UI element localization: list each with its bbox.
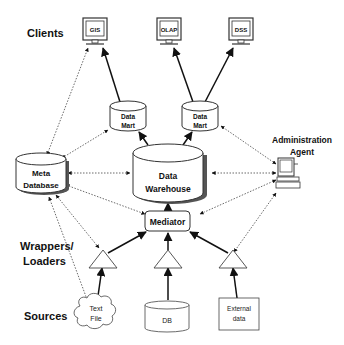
- edge-warehouse-mart2: [183, 132, 192, 145]
- source-external-line1: External: [227, 305, 251, 312]
- row-label-loaders: Loaders: [23, 255, 66, 267]
- triangle-icon: [154, 250, 182, 268]
- edge-admin-mart2: [221, 126, 276, 164]
- client-gis-label: GIS: [90, 27, 100, 33]
- data-warehouse-line1: Data: [159, 171, 178, 181]
- triangle-icon: [89, 250, 117, 268]
- edge-admin-mediator: [200, 180, 276, 214]
- edge-metadb-gis: [47, 48, 88, 155]
- data-mart-2: Data Mart: [182, 101, 218, 131]
- wrapper-1: [89, 250, 117, 268]
- row-label-wrappers: Wrappers/: [20, 240, 74, 252]
- wrapper-2: [154, 250, 182, 268]
- architecture-diagram: Clients Wrappers/ Loaders Sources GIS OL…: [0, 0, 344, 345]
- client-dss-label: DSS: [235, 27, 247, 33]
- source-text-file-line1: Text: [90, 305, 103, 312]
- edge-external-wrapper3: [233, 268, 237, 298]
- edge-metadb-mart1: [62, 130, 108, 158]
- admin-computer-icon: [276, 158, 300, 188]
- client-olap-label: OLAP: [161, 27, 178, 33]
- row-label-clients: Clients: [27, 27, 64, 39]
- client-dss: DSS: [229, 18, 253, 44]
- data-mart-1-line2: Mart: [121, 122, 136, 129]
- source-db-label: DB: [162, 317, 172, 324]
- source-text-file-line2: File: [90, 315, 101, 322]
- meta-database: Meta Database: [16, 153, 69, 195]
- meta-database-line2: Database: [23, 181, 59, 190]
- meta-database-line1: Meta: [32, 169, 51, 178]
- data-warehouse-line2: Warehouse: [145, 184, 191, 194]
- data-mart-2-line2: Mart: [193, 122, 208, 129]
- data-mart-1-line1: Data: [121, 113, 135, 120]
- data-mart-2-line1: Data: [193, 113, 207, 120]
- data-mart-1: Data Mart: [110, 101, 146, 131]
- source-external-line2: data: [233, 315, 246, 322]
- admin-agent-line1: Administration: [272, 135, 332, 145]
- edge-mart2-dss: [205, 48, 233, 102]
- client-gis: GIS: [83, 18, 107, 44]
- wrapper-3: [219, 250, 247, 268]
- edge-mart1-gis: [103, 48, 120, 102]
- admin-agent-line2: Agent: [290, 147, 314, 157]
- row-label-sources: Sources: [24, 310, 67, 322]
- triangle-icon: [219, 250, 247, 268]
- mediator-label: Mediator: [150, 217, 186, 227]
- source-db: DB: [145, 301, 189, 332]
- edge-wrapper3-mediator: [190, 232, 228, 253]
- edge-warehouse-mart1: [139, 132, 148, 145]
- source-text-file: Text File: [74, 293, 116, 328]
- mediator: Mediator: [145, 211, 190, 231]
- data-warehouse: Data Warehouse: [133, 144, 207, 204]
- edge-wrapper1-mediator: [108, 232, 146, 253]
- edge-admin-wrapper3: [234, 193, 276, 252]
- edge-mart2-olap: [174, 48, 193, 102]
- client-olap: OLAP: [157, 18, 181, 44]
- source-external-data: External data: [219, 298, 259, 330]
- box-icon: [219, 298, 259, 330]
